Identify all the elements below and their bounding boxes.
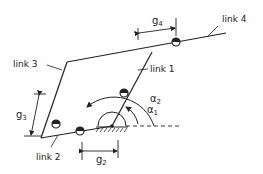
joint-icon — [172, 38, 180, 46]
g4-dimension: g4 — [138, 15, 176, 40]
link-1-label: link 1 — [150, 64, 175, 74]
link-1-line — [112, 52, 152, 126]
alpha1-arc — [126, 107, 138, 124]
joint-icon — [76, 127, 84, 135]
link-3-label: link 3 — [13, 59, 38, 69]
g3-dimension: g3 — [16, 94, 46, 136]
link-4-label: link 4 — [222, 14, 247, 24]
link-4-line — [67, 33, 226, 62]
svg-text:g4: g4 — [152, 15, 163, 28]
joint-icon — [120, 89, 128, 97]
svg-text:g2: g2 — [96, 154, 107, 167]
alpha2-arc — [87, 97, 154, 126]
joint-icon — [52, 120, 60, 128]
linkage-diagram: g4 g3 g2 α1 α2 link 3 link 4 link 1 link… — [0, 0, 263, 174]
ground-pivot — [96, 112, 128, 132]
link-2-label: link 2 — [36, 152, 61, 162]
g2-dimension: g2 — [82, 140, 118, 167]
svg-text:g3: g3 — [16, 109, 27, 122]
